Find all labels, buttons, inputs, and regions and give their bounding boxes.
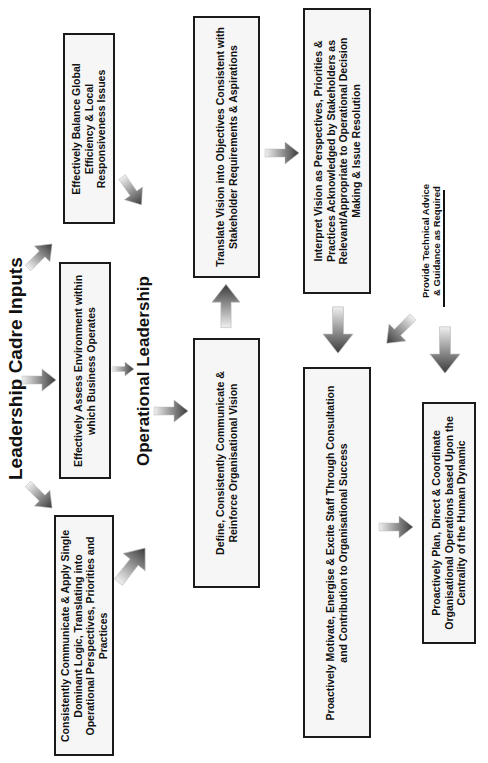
arrow-icon [379, 516, 413, 538]
box-line: which Business Operates [85, 265, 98, 477]
box-line: Effectively Assess Environment within [72, 265, 85, 477]
box-line: Consistently Communicate & Apply Single [59, 518, 72, 754]
arrow-icon [112, 362, 134, 376]
box-line: Organisational Operations based Upon the [443, 404, 456, 642]
box-interpret-vision: Interpret Vision as Perspectives, Priori… [303, 8, 371, 294]
box-line: Proactively Plan, Direct & Coordinate [430, 404, 443, 642]
box-communicate-dominant-logic: Consistently Communicate & Apply Single … [54, 515, 114, 756]
box-line: Translate Vision into Objectives Consist… [214, 18, 227, 276]
arrow-icon [265, 142, 299, 164]
box-line: Relevant/Appropriate to Operational Deci… [337, 10, 350, 292]
box-balance-global-local: Effectively Balance Global Efficiency & … [63, 33, 115, 224]
box-motivate-staff: Proactively Motivate, Energise & Excite … [303, 367, 371, 738]
arrow-icon [22, 369, 56, 391]
title-operational-leadership: Operational Leadership [134, 276, 154, 466]
arrow-icon [20, 476, 60, 516]
title-leadership-cadre-inputs: Leadership Cadre Inputs [5, 257, 27, 480]
box-line: Stakeholder Requirements & Aspirations [227, 18, 240, 276]
box-line: Operational Perspectives, Priorities and [84, 518, 97, 754]
box-line: and Contribution to Organisational Succe… [337, 370, 350, 736]
box-line: Practices Acknowledged by Stakeholders a… [324, 10, 337, 292]
box-line: Centrality of the Human Dynamic [455, 404, 468, 642]
box-line: Making & Issue Resolution [350, 10, 363, 292]
box-line: Proactively Motivate, Energise & Excite … [324, 370, 337, 736]
box-line: Effectively Balance Global [70, 36, 83, 221]
box-line: Interpret Vision as Perspectives, Priori… [312, 10, 325, 292]
annotation-line: Provide Technical Advice [420, 182, 431, 300]
arrow-icon [113, 171, 151, 211]
arrow-icon [212, 284, 240, 327]
box-translate-vision: Translate Vision into Objectives Consist… [193, 16, 260, 278]
arrow-icon [323, 307, 353, 353]
box-line: Define, Consistently Communicate & [214, 343, 227, 583]
annotation-underline [443, 190, 445, 307]
box-line: Dominant Logic, Translating into [71, 518, 84, 754]
annotation-line: & Guidance as Required [431, 182, 442, 300]
box-line: Responsiveness Issues [95, 36, 108, 221]
arrow-icon [430, 327, 460, 373]
box-line: Reinforce Organisational Vision [227, 343, 240, 583]
arrow-icon [378, 309, 421, 352]
box-line: Efficiency & Local [83, 36, 96, 221]
arrow-icon [107, 539, 156, 590]
box-line: Practices [97, 518, 110, 754]
box-assess-environment: Effectively Assess Environment within wh… [59, 262, 111, 479]
arrow-icon [154, 400, 188, 422]
box-define-vision: Define, Consistently Communicate & Reinf… [193, 338, 260, 588]
box-plan-direct-coordinate: Proactively Plan, Direct & Coordinate Or… [422, 402, 476, 644]
